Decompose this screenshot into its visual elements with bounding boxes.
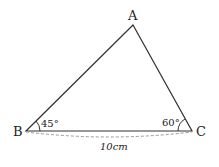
side-bc-length-label: 10cm — [100, 141, 128, 152]
diagram-canvas: A B C 45° 60° 10cm — [0, 0, 219, 167]
side-bc-dashed-brace — [26, 132, 192, 137]
vertex-a-label: A — [127, 8, 138, 23]
vertex-b-label: B — [13, 124, 23, 139]
angle-b-arc — [36, 121, 40, 131]
angle-c-label: 60° — [162, 117, 180, 128]
angle-b-label: 45° — [41, 118, 59, 129]
vertex-c-label: C — [196, 124, 206, 139]
triangle-abc — [26, 25, 192, 131]
triangle-diagram: A B C 45° 60° 10cm — [0, 0, 219, 167]
